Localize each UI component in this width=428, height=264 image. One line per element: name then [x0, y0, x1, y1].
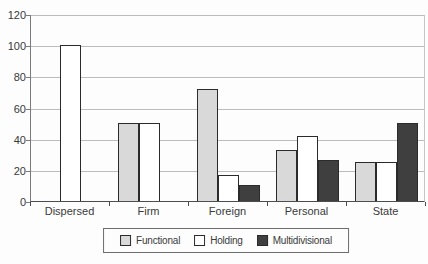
- bar-functional-foreign: [197, 89, 218, 201]
- bar-group-firm: [110, 15, 189, 201]
- legend-swatch-multidivisional: [257, 235, 268, 246]
- y-axis-tick: [26, 140, 30, 141]
- legend-item-functional: Functional: [120, 235, 180, 246]
- x-axis-label-dispersed: Dispersed: [30, 205, 109, 217]
- bar-holding-firm: [139, 123, 160, 201]
- x-axis-tick: [30, 202, 31, 206]
- x-axis-label-foreign: Foreign: [188, 205, 267, 217]
- x-axis-tick: [425, 202, 426, 206]
- y-axis-tick-label-40: 40: [0, 133, 26, 147]
- legend-swatch-holding: [194, 235, 205, 246]
- bar-group-dispersed: [31, 15, 110, 201]
- x-axis-tick: [346, 202, 347, 206]
- x-axis-tick: [267, 202, 268, 206]
- y-axis-tick-label-60: 60: [0, 102, 26, 116]
- x-axis-tick: [188, 202, 189, 206]
- legend-label-functional: Functional: [136, 235, 180, 246]
- bar-functional-personal: [276, 150, 297, 201]
- x-axis-label-state: State: [346, 205, 425, 217]
- bar-multidivisional-state: [397, 123, 418, 201]
- legend: FunctionalHoldingMultidivisional: [103, 228, 349, 253]
- bar-group-foreign: [189, 15, 268, 201]
- bar-multidivisional-foreign: [239, 185, 260, 201]
- x-axis-label-personal: Personal: [267, 205, 346, 217]
- y-axis-tick: [26, 77, 30, 78]
- x-axis-tick: [109, 202, 110, 206]
- bar-functional-firm: [118, 123, 139, 201]
- legend-item-multidivisional: Multidivisional: [257, 235, 332, 246]
- legend-item-holding: Holding: [194, 235, 243, 246]
- plot-area: [30, 15, 425, 202]
- legend-label-multidivisional: Multidivisional: [273, 235, 332, 246]
- y-axis-tick-label-20: 20: [0, 164, 26, 178]
- bar-holding-personal: [297, 136, 318, 201]
- y-axis-tick-label-80: 80: [0, 70, 26, 84]
- bar-multidivisional-personal: [318, 160, 339, 201]
- bar-holding-dispersed: [60, 45, 81, 201]
- y-axis-tick: [26, 109, 30, 110]
- bar-group-personal: [268, 15, 347, 201]
- legend-swatch-functional: [120, 235, 131, 246]
- bar-holding-foreign: [218, 175, 239, 201]
- bar-functional-state: [355, 162, 376, 201]
- y-axis-tick: [26, 15, 30, 16]
- x-axis-label-firm: Firm: [109, 205, 188, 217]
- bar-holding-state: [376, 162, 397, 201]
- legend-label-holding: Holding: [210, 235, 243, 246]
- bar-chart-figure: FunctionalHoldingMultidivisional 1201008…: [0, 0, 428, 264]
- y-axis-tick: [26, 46, 30, 47]
- bar-group-state: [347, 15, 426, 201]
- y-axis-tick: [26, 171, 30, 172]
- y-axis-tick-label-0: 0: [0, 195, 26, 209]
- y-axis-tick-label-100: 100: [0, 39, 26, 53]
- y-axis-tick-label-120: 120: [0, 8, 26, 22]
